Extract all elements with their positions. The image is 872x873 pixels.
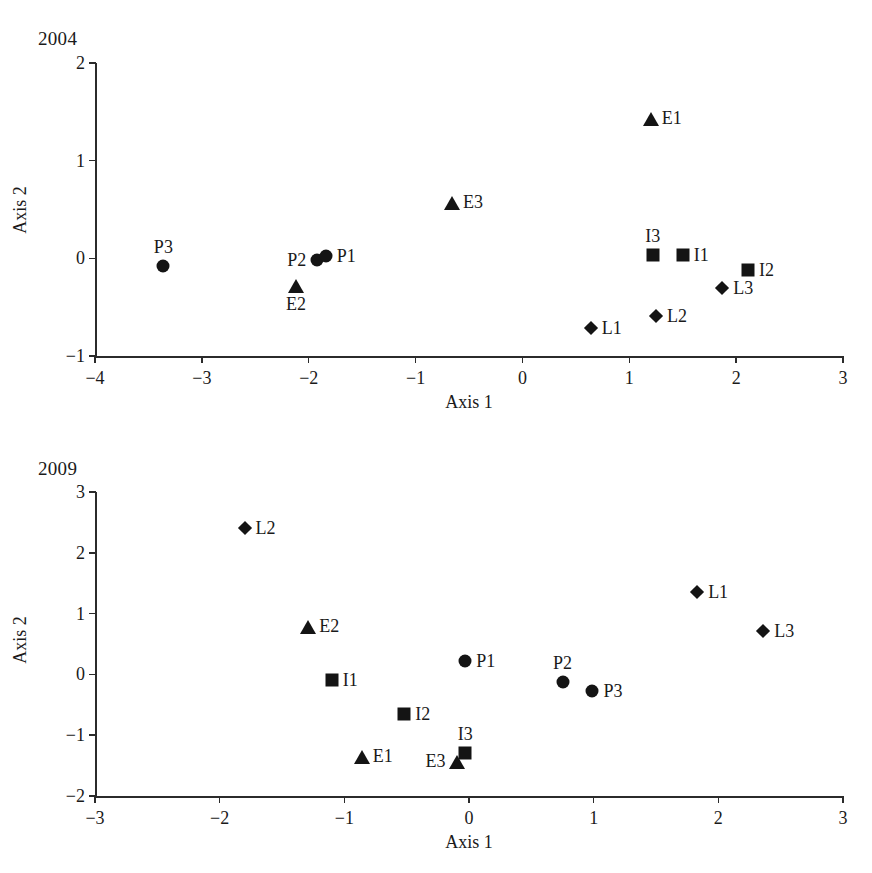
data-point-label-p2: P2	[287, 251, 306, 269]
x-tick	[94, 356, 96, 363]
x-tick	[593, 796, 595, 803]
x-tick-label: 2	[714, 808, 723, 829]
triangle-marker-icon	[288, 279, 304, 293]
circle-marker-icon	[556, 676, 569, 689]
x-tick	[201, 356, 203, 363]
x-tick-label: −1	[406, 368, 425, 389]
y-tick-label: 0	[55, 248, 85, 269]
x-tick-label: −4	[85, 368, 104, 389]
data-point-label-i1: I1	[694, 246, 709, 264]
diamond-marker-icon	[649, 309, 663, 323]
x-tick-label: 3	[839, 808, 848, 829]
square-marker-icon	[646, 249, 659, 262]
y-tick	[89, 491, 96, 493]
data-point-label-p3: P3	[154, 238, 173, 256]
x-tick-label: −3	[192, 368, 211, 389]
x-tick	[344, 796, 346, 803]
data-point-label-e2: E2	[319, 617, 339, 635]
data-point-label-i3: I3	[645, 227, 660, 245]
x-tick	[308, 356, 310, 363]
x-tick	[735, 356, 737, 363]
y-tick-label: −1	[55, 725, 85, 746]
square-marker-icon	[398, 707, 411, 720]
x-tick-label: 0	[465, 808, 474, 829]
x-tick	[522, 356, 524, 363]
x-tick	[219, 796, 221, 803]
data-point-label-l1: L1	[708, 583, 728, 601]
data-point-label-l3: L3	[733, 279, 753, 297]
data-point-label-e2: E2	[286, 295, 306, 313]
x-tick-label: −2	[299, 368, 318, 389]
x-axis-line	[95, 356, 843, 358]
y-tick	[89, 355, 96, 357]
diamond-marker-icon	[690, 585, 704, 599]
data-point-label-e1: E1	[373, 747, 393, 765]
circle-marker-icon	[586, 684, 599, 697]
data-point-label-p3: P3	[603, 682, 622, 700]
data-point-label-e3: E3	[463, 193, 483, 211]
x-tick	[415, 356, 417, 363]
triangle-marker-icon	[444, 196, 460, 210]
y-tick	[89, 62, 96, 64]
y-tick	[89, 613, 96, 615]
y-tick-label: 1	[55, 603, 85, 624]
y-tick	[89, 552, 96, 554]
chart-panel-2004: 2004 −4−3−2−10123−1012Axis 1Axis 2E1E3E2…	[0, 0, 872, 436]
data-point-label-l3: L3	[774, 622, 794, 640]
plot-area-2004: −4−3−2−10123−1012Axis 1Axis 2E1E3E2P3P2P…	[0, 0, 872, 436]
data-point-label-i1: I1	[343, 671, 358, 689]
x-tick-label: 3	[839, 368, 848, 389]
data-point-label-i2: I2	[759, 261, 774, 279]
square-marker-icon	[676, 249, 689, 262]
y-tick-label: −2	[55, 786, 85, 807]
x-tick	[718, 796, 720, 803]
x-axis-title: Axis 1	[445, 832, 493, 853]
x-tick	[468, 796, 470, 803]
data-point-label-p1: P1	[476, 652, 495, 670]
triangle-marker-icon	[300, 620, 316, 634]
diamond-marker-icon	[584, 321, 598, 335]
data-point-label-i3: I3	[458, 725, 473, 743]
x-axis-title: Axis 1	[445, 392, 493, 413]
y-axis-title: Axis 2	[10, 616, 31, 664]
plot-area-2009: −3−2−10123−2−10123Axis 1Axis 2L2L1L3E2P1…	[0, 440, 872, 873]
y-tick	[89, 258, 96, 260]
y-tick-label: −1	[55, 346, 85, 367]
circle-marker-icon	[319, 250, 332, 263]
x-tick-label: −2	[210, 808, 229, 829]
y-axis-title: Axis 2	[10, 186, 31, 234]
triangle-marker-icon	[643, 112, 659, 126]
data-point-label-l1: L1	[602, 319, 622, 337]
x-tick-label: −1	[335, 808, 354, 829]
data-point-label-e3: E3	[426, 752, 446, 770]
triangle-marker-icon	[354, 750, 370, 764]
y-tick	[89, 795, 96, 797]
diamond-marker-icon	[238, 521, 252, 535]
triangle-marker-icon	[449, 755, 465, 769]
diamond-marker-icon	[756, 624, 770, 638]
x-tick-label: 1	[589, 808, 598, 829]
y-tick	[89, 674, 96, 676]
y-tick-label: 2	[55, 542, 85, 563]
diamond-marker-icon	[715, 281, 729, 295]
y-axis-line	[95, 63, 97, 356]
y-tick-label: 1	[55, 150, 85, 171]
y-tick	[89, 734, 96, 736]
x-tick	[94, 796, 96, 803]
data-point-label-l2: L2	[667, 307, 687, 325]
y-tick-label: 0	[55, 664, 85, 685]
x-tick	[842, 356, 844, 363]
chart-panel-2009: 2009 −3−2−10123−2−10123Axis 1Axis 2L2L1L…	[0, 440, 872, 873]
y-axis-line	[95, 492, 97, 796]
x-tick-label: 2	[732, 368, 741, 389]
y-tick	[89, 160, 96, 162]
ordination-figure: 2004 −4−3−2−10123−1012Axis 1Axis 2E1E3E2…	[0, 0, 872, 873]
data-point-label-p2: P2	[553, 654, 572, 672]
square-marker-icon	[325, 673, 338, 686]
y-tick-label: 3	[55, 482, 85, 503]
square-marker-icon	[741, 264, 754, 277]
circle-marker-icon	[459, 655, 472, 668]
data-point-label-p1: P1	[337, 247, 356, 265]
x-tick-label: 0	[518, 368, 527, 389]
data-point-label-i2: I2	[415, 705, 430, 723]
